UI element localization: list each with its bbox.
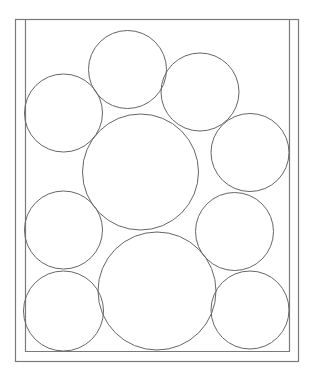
circle-right-middle — [211, 114, 289, 192]
circle-large-middle — [83, 114, 199, 230]
circle-upper-left — [25, 74, 103, 152]
circles-group — [24, 31, 290, 352]
inner-frame — [26, 20, 290, 352]
circle-right-lower-middle — [196, 193, 274, 271]
circle-top-center — [89, 31, 167, 109]
circle-bottom-right — [211, 271, 289, 349]
circle-top-right — [161, 53, 239, 131]
circle-packing-diagram — [0, 0, 313, 379]
circle-left-middle — [25, 191, 103, 269]
outer-frame — [16, 20, 299, 362]
circle-bottom-left — [24, 271, 104, 351]
circle-large-bottom — [98, 232, 216, 350]
